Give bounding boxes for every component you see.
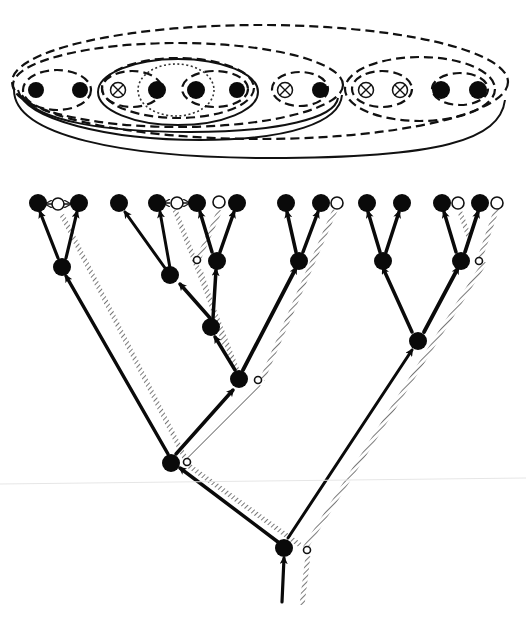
tip-F xyxy=(228,194,246,212)
path-root-left xyxy=(185,463,300,545)
tip-open-EF xyxy=(213,196,225,208)
diagram-stage xyxy=(0,0,526,620)
branch-D xyxy=(160,212,170,268)
diagram-canvas xyxy=(0,0,526,620)
node-IJKL xyxy=(409,332,427,350)
taxon-C-crossed-circle-icon xyxy=(111,83,126,98)
branch-G xyxy=(287,212,296,252)
tip-H xyxy=(312,194,330,212)
node-CDEF xyxy=(202,318,220,336)
taxon-B xyxy=(72,82,88,98)
path-mid-up xyxy=(187,385,260,458)
internal-nodes xyxy=(53,252,483,557)
node-root-open xyxy=(304,547,311,554)
node-mid-open xyxy=(255,377,262,384)
taxon-K xyxy=(432,81,450,99)
tip-D xyxy=(148,194,166,212)
branch-J xyxy=(386,212,399,252)
taxon-D xyxy=(148,81,166,99)
tip-open-DE xyxy=(171,197,183,209)
node-EF xyxy=(208,252,226,270)
tip-open-GH xyxy=(331,197,343,209)
taxon-F xyxy=(229,82,245,98)
tip-C xyxy=(110,194,128,212)
branch-root-stem xyxy=(282,558,284,602)
tip-K xyxy=(433,194,451,212)
taxon-I-crossed-circle-icon xyxy=(359,83,374,98)
node-GH xyxy=(290,252,308,270)
path-root-in xyxy=(302,556,308,605)
branch-root-left xyxy=(180,468,278,542)
taxon-H xyxy=(312,82,328,98)
node-left xyxy=(162,454,180,472)
terminal-taxa xyxy=(29,194,503,212)
taxon-G-crossed-circle-icon xyxy=(278,83,293,98)
tip-open-AB xyxy=(52,198,64,210)
tip-G xyxy=(277,194,295,212)
node-AB xyxy=(53,258,71,276)
taxon-L xyxy=(469,81,487,99)
node-mid xyxy=(230,370,248,388)
scan-artifact-line xyxy=(0,478,526,484)
path-root-right xyxy=(305,262,485,548)
group-left-major-dashed xyxy=(13,43,343,127)
branch-KL-stem xyxy=(424,268,458,332)
tip-open-L xyxy=(491,197,503,209)
node-IJ xyxy=(374,252,392,270)
branch-I xyxy=(368,212,380,252)
tip-E xyxy=(188,194,206,212)
branch-C xyxy=(125,212,165,268)
taxon-J-crossed-circle-icon xyxy=(393,83,408,98)
path-right-tip xyxy=(480,208,497,258)
node-KL-open xyxy=(476,258,483,265)
node-root xyxy=(275,539,293,557)
nested-set-diagram xyxy=(12,25,508,158)
node-KL xyxy=(452,252,470,270)
branch-A xyxy=(40,212,58,258)
branch-F xyxy=(220,212,234,252)
branch-AB-stem xyxy=(66,276,168,454)
tip-A xyxy=(29,194,47,212)
taxon-A xyxy=(28,82,44,98)
node-EF-open xyxy=(194,257,201,264)
node-CD xyxy=(161,266,179,284)
branch-root-right xyxy=(288,350,412,538)
node-left-open xyxy=(184,459,191,466)
taxon-E xyxy=(187,81,205,99)
branch-H xyxy=(303,212,318,252)
branch-K xyxy=(444,212,456,252)
tip-I xyxy=(358,194,376,212)
tip-B xyxy=(70,194,88,212)
tip-open-K xyxy=(452,197,464,209)
cladogram xyxy=(29,194,503,605)
tip-J xyxy=(393,194,411,212)
path-GH-open xyxy=(262,210,335,380)
branch-IJ-stem xyxy=(383,268,412,332)
tip-L xyxy=(471,194,489,212)
lineages xyxy=(40,203,478,602)
branch-B xyxy=(66,212,77,258)
